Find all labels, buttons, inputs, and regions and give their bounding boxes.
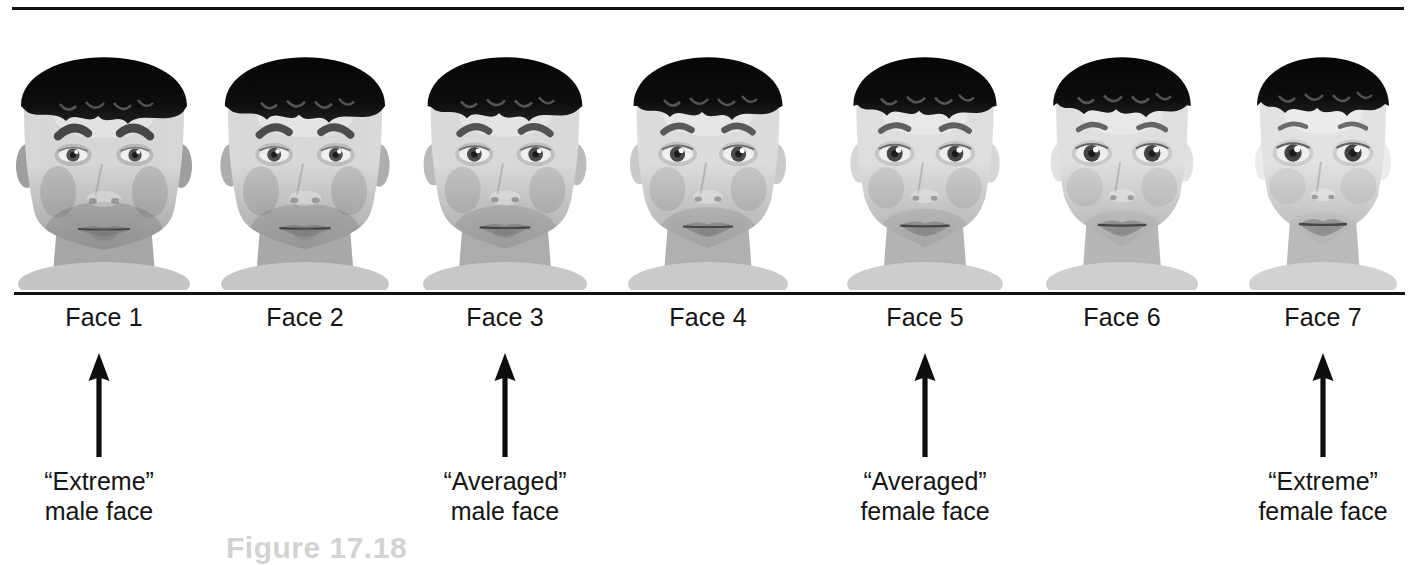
face-label-1: Face 1: [4, 303, 204, 332]
caption-line-1: “Averaged”: [863, 467, 986, 495]
face-image-3: [416, 14, 594, 290]
face-image-strip: [0, 14, 1414, 290]
face-label-2: Face 2: [205, 303, 405, 332]
face-label-6: Face 6: [1022, 303, 1222, 332]
annotation-caption-face-1: “Extreme”male face: [0, 466, 229, 526]
caption-line-2: female face: [795, 496, 1055, 526]
caption-line-1: “Averaged”: [443, 467, 566, 495]
face-label-3: Face 3: [405, 303, 605, 332]
face-image-4: [619, 14, 797, 290]
face-image-6: [1033, 14, 1211, 290]
annotation-arrow-face-5: [912, 353, 938, 457]
face-image-5: [836, 14, 1014, 290]
caption-line-2: female face: [1193, 496, 1414, 526]
annotation-arrow-face-1: [86, 353, 112, 457]
caption-line-1: “Extreme”: [44, 467, 154, 495]
face-image-2: [216, 14, 394, 290]
caption-line-2: male face: [375, 496, 635, 526]
face-image-1: [15, 14, 193, 290]
annotation-caption-face-7: “Extreme”female face: [1193, 466, 1414, 526]
caption-line-2: male face: [0, 496, 229, 526]
face-label-4: Face 4: [608, 303, 808, 332]
annotation-caption-face-3: “Averaged”male face: [375, 466, 635, 526]
face-image-7: [1234, 14, 1412, 290]
bottom-rule: [14, 292, 1405, 295]
face-label-5: Face 5: [825, 303, 1025, 332]
annotation-caption-face-5: “Averaged”female face: [795, 466, 1055, 526]
figure-number: Figure 17.18: [226, 531, 407, 565]
annotation-arrow-face-3: [492, 353, 518, 457]
annotation-arrow-face-7: [1310, 353, 1336, 457]
caption-line-1: “Extreme”: [1268, 467, 1378, 495]
face-label-7: Face 7: [1223, 303, 1414, 332]
top-rule: [12, 7, 1404, 10]
